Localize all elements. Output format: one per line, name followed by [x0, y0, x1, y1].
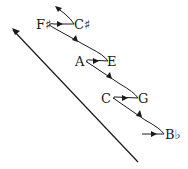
- note-label-e: E: [107, 54, 117, 69]
- note-label-csharp: C♯: [74, 17, 90, 32]
- edge-csharp-continue: [55, 6, 74, 24]
- note-label-c: C: [101, 91, 111, 106]
- note-label-fsharp: F♯: [36, 17, 51, 32]
- note-label-a: A: [74, 54, 85, 69]
- main-diagonal-arrow: [12, 28, 138, 162]
- note-label-bflat: B♭: [165, 127, 181, 142]
- edge-fsharp-csharp: [50, 21, 74, 27]
- note-label-g: G: [138, 91, 148, 106]
- fifths-spiral-diagram: F♯ C♯ A E C G B♭: [0, 0, 188, 169]
- edge-start-bflat: [142, 131, 164, 137]
- edge-c-g: [114, 95, 138, 101]
- edge-a-e: [87, 58, 108, 64]
- arrowhead-icon: [12, 28, 20, 35]
